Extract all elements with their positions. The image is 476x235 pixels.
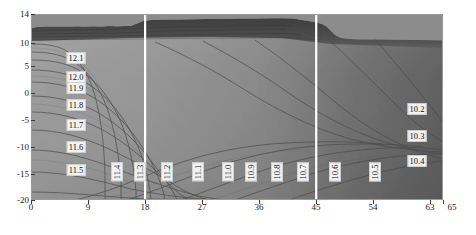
contour-label: 11.6 <box>67 141 86 153</box>
y-tick-mark <box>31 66 35 67</box>
x-tick-label: 0 <box>29 203 34 212</box>
y-tick-label: 0 <box>3 89 29 98</box>
x-tick-label: 36 <box>255 203 264 212</box>
y-tick-label: -20 <box>3 196 29 205</box>
contour-label: 11.9 <box>67 82 86 94</box>
contour-label: 11.3 <box>134 163 146 182</box>
contour-label: 10.9 <box>245 163 257 182</box>
contour-label: 10.7 <box>297 163 309 182</box>
x-tick-label: 9 <box>86 203 91 212</box>
y-tick-label: -10 <box>3 143 29 152</box>
contour-label: 11.5 <box>67 164 86 176</box>
y-tick-mark <box>31 120 35 121</box>
y-tick-label: 14 <box>3 10 29 19</box>
contour-label: 11.0 <box>222 163 234 182</box>
y-axis: 14 10 5 0 -5 -10 -15 -20 <box>0 0 29 235</box>
y-tick-mark <box>31 147 35 148</box>
contour-label: 10.3 <box>408 130 427 142</box>
x-tick-label: 27 <box>198 203 207 212</box>
y-tick-mark <box>31 43 35 44</box>
contour-figure: 12.1 12.0 11.9 11.8 11.7 11.6 11.5 11.4 … <box>0 0 476 235</box>
y-tick-mark <box>31 174 35 175</box>
x-tick-label: 45 <box>312 203 321 212</box>
contour-label: 10.6 <box>329 163 341 182</box>
y-tick-mark <box>31 14 35 15</box>
contour-label: 12.1 <box>67 52 86 64</box>
contour-label: 10.5 <box>369 163 381 182</box>
contour-label: 11.2 <box>161 163 173 182</box>
contour-label: 10.4 <box>408 155 427 167</box>
y-tick-label: -15 <box>3 170 29 179</box>
contour-label: 11.4 <box>111 163 123 182</box>
x-tick-label: 18 <box>141 203 150 212</box>
contour-label: 11.1 <box>192 163 204 182</box>
y-tick-mark <box>31 93 35 94</box>
y-tick-label: -5 <box>3 116 29 125</box>
x-tick-label: 54 <box>369 203 378 212</box>
plot-area: 12.1 12.0 11.9 11.8 11.7 11.6 11.5 11.4 … <box>31 14 443 200</box>
contour-canvas <box>31 14 443 200</box>
y-tick-label: 5 <box>3 62 29 71</box>
x-tick-label: 63 <box>426 203 435 212</box>
x-tick-label: 65 <box>448 203 457 212</box>
contour-label: 10.2 <box>408 103 427 115</box>
contour-label: 11.7 <box>67 119 86 131</box>
y-tick-label: 10 <box>3 39 29 48</box>
contour-label: 11.8 <box>67 99 86 111</box>
contour-label: 10.8 <box>271 163 283 182</box>
x-tick-mark <box>443 200 444 204</box>
